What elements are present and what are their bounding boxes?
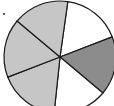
dot-marker [3,13,5,15]
pie-chart [0,0,114,106]
